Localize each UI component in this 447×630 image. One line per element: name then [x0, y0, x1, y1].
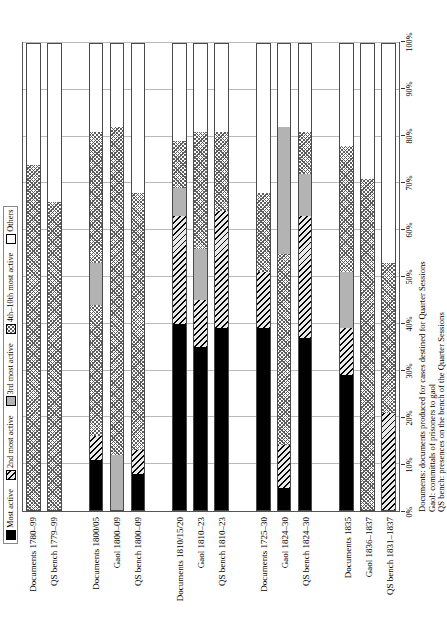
bar-segment-2nd	[193, 300, 208, 347]
bar-segment-4th	[360, 179, 375, 511]
chart-footnote: Documents: documents produced for cases …	[418, 261, 447, 512]
bar-segment-2nd	[298, 216, 313, 338]
category-label: Gaol 1810–23	[196, 517, 206, 568]
category-label: QS bench 1810–23	[217, 517, 227, 586]
bar-segment-3rd	[277, 127, 292, 253]
bar-segment-2nd	[89, 436, 104, 459]
category-label: Documents 1810/15/20	[175, 517, 185, 601]
bar-segment-others	[172, 43, 187, 141]
legend-item-3rd: 3rd most active	[5, 343, 16, 406]
legend-swatch-2nd-icon	[6, 470, 16, 480]
legend-item-4th: 4th–10th most active	[5, 253, 16, 335]
bar-stack	[47, 43, 62, 511]
bar-segment-3rd	[298, 174, 313, 216]
bar-segment-most	[172, 324, 187, 511]
bar-segment-4th	[26, 165, 41, 511]
bar-stack	[277, 43, 292, 511]
bar-segment-3rd	[110, 455, 125, 511]
axis-tick-label: 100%	[405, 32, 414, 51]
bar-segment-others	[26, 43, 41, 165]
bar-segment-others	[89, 43, 104, 132]
bar-stack	[172, 43, 187, 511]
category-label: Gaol 1824–30	[280, 517, 290, 568]
bar-segment-4th	[256, 193, 271, 273]
bar-stack	[298, 43, 313, 511]
category-label: QS bench 1779–99	[49, 517, 59, 586]
bar-segment-most	[256, 328, 271, 511]
footnote-line: QS bench: presences on the bench of the …	[437, 261, 447, 512]
bar-segment-others	[110, 43, 125, 127]
bar-segment-others	[131, 43, 146, 193]
axis-tick-label: 80%	[405, 128, 414, 143]
axis-tick-label: 50%	[405, 269, 414, 284]
bar-segment-most	[89, 460, 104, 511]
bar-stack	[214, 43, 229, 511]
bar-segment-4th	[298, 132, 313, 174]
legend-item-2nd: 2nd most active	[5, 416, 16, 481]
bar-segment-3rd	[89, 263, 104, 305]
legend-label: 3rd most active	[5, 343, 16, 394]
bar-segment-others	[214, 43, 229, 132]
bar-segment-others	[339, 43, 354, 146]
bar-stack	[381, 43, 396, 511]
bar-segment-2nd	[131, 450, 146, 473]
bar-stack	[360, 43, 375, 511]
bar-segment-2nd	[256, 272, 271, 328]
category-label: QS bench 1800–09	[133, 517, 143, 586]
bar-stack	[26, 43, 41, 511]
bar-segment-4th	[277, 254, 292, 446]
bar-segment-others	[47, 43, 62, 202]
bar-segment-4th	[193, 132, 208, 249]
legend-item-most: Most active	[5, 489, 16, 540]
bar-segment-4th	[131, 193, 146, 450]
bar-segment-4th	[339, 146, 354, 272]
bar-segment-most	[339, 375, 354, 511]
bar-segment-3rd	[172, 188, 187, 216]
bar-segment-4th	[172, 141, 187, 188]
bar-stack	[131, 43, 146, 511]
axis-tick-label: 70%	[405, 175, 414, 190]
bar-segment-others	[298, 43, 313, 132]
bar-segment-most	[193, 347, 208, 511]
axis-tick-label: 90%	[405, 81, 414, 96]
legend-label: 2nd most active	[5, 416, 16, 469]
bar-stack	[339, 43, 354, 511]
category-axis-labels: Documents 1780–99QS bench 1779–99Documen…	[22, 514, 400, 630]
axis-tick-label: 0%	[405, 506, 414, 517]
legend-label: Others	[5, 210, 16, 232]
bar-series-container	[23, 43, 399, 511]
axis-tick-label: 10%	[405, 457, 414, 472]
axis-tick-label: 30%	[405, 363, 414, 378]
legend-swatch-others-icon	[6, 234, 16, 244]
category-label: QS bench 1824–30	[301, 517, 311, 586]
category-label: Gaol 1836–1837	[364, 517, 374, 577]
bar-segment-2nd	[277, 446, 292, 488]
bar-segment-others	[277, 43, 292, 127]
bar-segment-4th	[381, 263, 396, 413]
legend-item-others: Others	[5, 210, 16, 244]
category-label: QS bench 1831–1837	[385, 517, 395, 595]
bar-segment-others	[193, 43, 208, 132]
bar-segment-3rd	[193, 249, 208, 300]
bar-stack	[193, 43, 208, 511]
bar-segment-most	[298, 338, 313, 511]
bar-segment-4th	[89, 305, 104, 436]
bar-segment-4th	[214, 132, 229, 212]
bar-stack	[89, 43, 104, 511]
bar-stack	[256, 43, 271, 511]
bar-segment-2nd	[214, 211, 229, 328]
category-label: Documents 1725–30	[259, 517, 269, 592]
bar-segment-most	[214, 328, 229, 511]
legend-swatch-most-icon	[6, 530, 16, 540]
legend-label: 4th–10th most active	[5, 253, 16, 323]
category-label: Documents 1800/05	[91, 517, 101, 590]
legend-swatch-3rd-icon	[6, 397, 16, 407]
category-label: Documents 1835	[343, 517, 353, 578]
bar-segment-3rd	[339, 272, 354, 328]
bar-stack	[110, 43, 125, 511]
plot-area	[22, 42, 400, 512]
bar-segment-4th	[47, 202, 62, 511]
bar-segment-2nd	[339, 328, 354, 375]
